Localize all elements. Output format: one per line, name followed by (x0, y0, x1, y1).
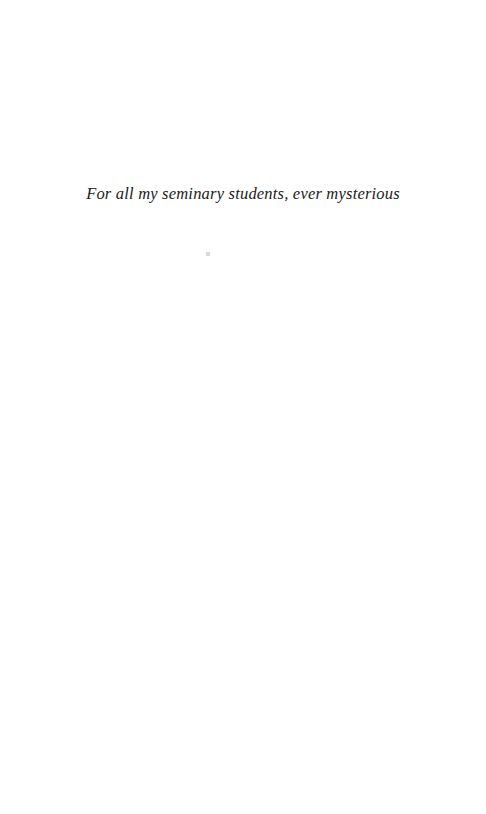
dedication-page: For all my seminary students, ever myste… (0, 0, 486, 814)
dedication-text: For all my seminary students, ever myste… (0, 184, 486, 204)
print-speck-artifact (206, 252, 210, 256)
